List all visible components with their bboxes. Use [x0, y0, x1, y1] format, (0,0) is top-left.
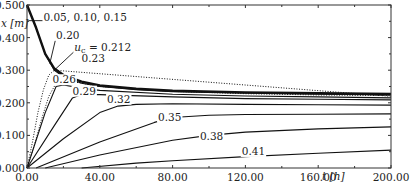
- y-axis-label: x [m]: [1, 17, 29, 29]
- series-line: [82, 150, 391, 168]
- y-tick-label: 0.000: [0, 162, 25, 174]
- x-tick-label: 40.00: [85, 171, 115, 183]
- annotation-leader: [54, 52, 73, 70]
- y-tick-label: 0.500: [0, 0, 25, 11]
- curve-annotation: 0.26: [52, 73, 76, 85]
- curve-annotation: 0.05, 0.10, 0.15: [43, 11, 127, 23]
- x-tick-label: 80.00: [158, 171, 188, 183]
- curve-annotation: 0.20: [56, 29, 79, 41]
- curve-annotation: 0.35: [158, 111, 181, 123]
- y-tick-label: 0.200: [0, 97, 25, 109]
- curve-annotation: 0.38: [200, 130, 223, 142]
- y-tick-label: 0.400: [0, 32, 25, 44]
- curve-annotation: 0.41: [242, 145, 265, 157]
- curve-annotation: 0.29: [73, 85, 96, 97]
- curve-annotations: 0.05, 0.10, 0.150.20uc = 0.2120.230.260.…: [28, 11, 266, 157]
- x-tick-label: 200.00: [373, 171, 410, 183]
- annotation-leader: [50, 41, 55, 64]
- line-chart: 0.0040.0080.00120.00160.00200.000.0000.1…: [0, 0, 410, 184]
- curve-annotation: 0.32: [107, 93, 130, 105]
- y-tick-label: 0.300: [0, 64, 25, 76]
- x-tick-label: 120.00: [227, 171, 264, 183]
- curve-annotation: 0.23: [82, 52, 105, 64]
- x-axis-label: t [h]: [322, 170, 345, 182]
- y-tick-label: 0.100: [0, 129, 25, 141]
